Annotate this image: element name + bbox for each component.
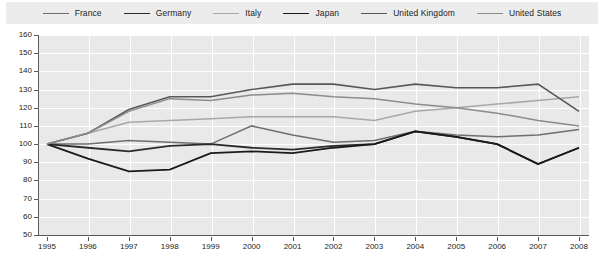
y-axis-tick-mark bbox=[34, 35, 38, 36]
x-axis-tick-mark bbox=[497, 237, 498, 241]
x-axis-tick-label: 2006 bbox=[477, 243, 517, 251]
y-axis-tick-mark bbox=[34, 144, 38, 145]
x-axis-tick-mark bbox=[579, 237, 580, 241]
y-axis-tick-mark bbox=[34, 53, 38, 54]
y-axis-tick-mark bbox=[34, 235, 38, 236]
y-axis-tick-label: 110 bbox=[2, 122, 32, 130]
legend-item-germany[interactable]: Germany bbox=[124, 8, 192, 18]
x-axis-tick-label: 2005 bbox=[436, 243, 476, 251]
legend-label: Japan bbox=[315, 8, 339, 18]
y-axis-tick-label: 80 bbox=[2, 176, 32, 184]
legend-item-united-kingdom[interactable]: United Kingdom bbox=[361, 8, 455, 18]
legend-label: Germany bbox=[156, 8, 192, 18]
y-axis-tick-mark bbox=[34, 162, 38, 163]
legend-label: United Kingdom bbox=[393, 8, 455, 18]
y-axis-tick-mark bbox=[34, 71, 38, 72]
x-axis-tick-label: 2004 bbox=[395, 243, 435, 251]
y-axis-tick-label: 50 bbox=[2, 231, 32, 239]
y-axis-tick-label: 140 bbox=[2, 67, 32, 75]
y-axis-tick-label: 150 bbox=[2, 49, 32, 57]
plot-area-wrapper: 5060708090100110120130140150160199519961… bbox=[0, 26, 604, 259]
legend-swatch-icon bbox=[361, 13, 387, 14]
x-axis-tick-label: 1998 bbox=[150, 243, 190, 251]
y-axis-tick-mark bbox=[34, 217, 38, 218]
x-axis-tick-label: 2007 bbox=[518, 243, 558, 251]
x-axis-tick-mark bbox=[374, 237, 375, 241]
x-axis-tick-label: 2008 bbox=[559, 243, 599, 251]
legend-item-france[interactable]: France bbox=[43, 8, 102, 18]
legend-swatch-icon bbox=[43, 13, 69, 14]
chart-legend: FranceGermanyItalyJapanUnited KingdomUni… bbox=[6, 2, 598, 24]
legend-item-japan[interactable]: Japan bbox=[283, 8, 339, 18]
x-axis-tick-mark bbox=[47, 237, 48, 241]
x-axis-tick-mark bbox=[252, 237, 253, 241]
x-axis-tick-label: 2003 bbox=[354, 243, 394, 251]
y-axis-tick-label: 70 bbox=[2, 195, 32, 203]
legend-swatch-icon bbox=[477, 13, 503, 14]
x-axis-tick-label: 1997 bbox=[109, 243, 149, 251]
y-axis-tick-label: 160 bbox=[2, 31, 32, 39]
x-axis-tick-mark bbox=[88, 237, 89, 241]
legend-swatch-icon bbox=[124, 13, 150, 14]
x-axis-tick-mark bbox=[170, 237, 171, 241]
legend-item-united-states[interactable]: United States bbox=[477, 8, 561, 18]
legend-label: Italy bbox=[245, 8, 261, 18]
x-axis-tick-mark bbox=[211, 237, 212, 241]
x-axis-tick-mark bbox=[415, 237, 416, 241]
x-axis-tick-mark bbox=[129, 237, 130, 241]
x-axis-tick-mark bbox=[538, 237, 539, 241]
legend-item-italy[interactable]: Italy bbox=[213, 8, 261, 18]
x-axis-tick-label: 1999 bbox=[191, 243, 231, 251]
y-axis-tick-label: 120 bbox=[2, 104, 32, 112]
y-axis-tick-mark bbox=[34, 90, 38, 91]
series-line-france bbox=[47, 126, 579, 144]
x-axis-tick-label: 2001 bbox=[273, 243, 313, 251]
x-axis-tick-label: 2002 bbox=[313, 243, 353, 251]
x-axis-tick-label: 2000 bbox=[232, 243, 272, 251]
chart-figure: FranceGermanyItalyJapanUnited KingdomUni… bbox=[0, 0, 604, 259]
x-axis-tick-label: 1995 bbox=[27, 243, 67, 251]
y-axis-tick-mark bbox=[34, 180, 38, 181]
legend-swatch-icon bbox=[283, 13, 309, 14]
y-axis-tick-label: 100 bbox=[2, 140, 32, 148]
y-axis-tick-mark bbox=[34, 199, 38, 200]
y-axis-tick-mark bbox=[34, 126, 38, 127]
y-axis-tick-mark bbox=[34, 108, 38, 109]
series-lines bbox=[0, 26, 604, 259]
y-axis-tick-label: 60 bbox=[2, 213, 32, 221]
legend-swatch-icon bbox=[213, 13, 239, 14]
x-axis-tick-mark bbox=[333, 237, 334, 241]
x-axis-tick-mark bbox=[293, 237, 294, 241]
y-axis-tick-label: 90 bbox=[2, 158, 32, 166]
legend-label: France bbox=[75, 8, 102, 18]
legend-label: United States bbox=[509, 8, 561, 18]
x-axis-tick-mark bbox=[456, 237, 457, 241]
x-axis-tick-label: 1996 bbox=[68, 243, 108, 251]
y-axis-tick-label: 130 bbox=[2, 86, 32, 94]
